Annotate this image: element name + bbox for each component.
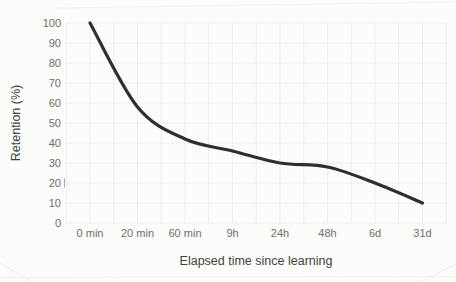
y-tick-label: 30 [49,157,61,169]
x-tick-label: 20 min [121,227,154,239]
y-tick-label: 90 [49,37,61,49]
x-tick-label: 24h [271,227,289,239]
x-tick-label: 31d [413,227,431,239]
x-axis-title: Elapsed time since learning [180,254,333,268]
y-tick-label: 70 [49,77,61,89]
forgetting-curve-line-chart: 0102030405060708090100 0 min20 min60 min… [0,0,456,282]
bottom-left-artifact-line [0,263,30,281]
x-tick-label: 0 min [77,227,104,239]
y-tick-label: 10 [49,197,61,209]
chart-card: 0102030405060708090100 0 min20 min60 min… [0,0,456,282]
x-tick-label: 9h [226,227,238,239]
bottom-edge-artifact-line [0,277,456,278]
x-tick-label: 48h [318,227,336,239]
y-tick-label: 100 [43,17,61,29]
y-tick-label: 80 [49,57,61,69]
y-tick-label: 20 [49,177,61,189]
x-tick-label: 60 min [168,227,201,239]
gridlines [66,23,446,223]
x-tick-label: 6d [369,227,381,239]
y-tick-label: 0 [55,217,61,229]
bottom-right-artifact-line [420,264,456,282]
x-axis-tick-labels: 0 min20 min60 min9h24h48h6d31d [77,227,432,239]
y-axis-tick-labels: 0102030405060708090100 [43,17,65,229]
y-tick-label: 60 [49,97,61,109]
top-edge-artifact-line [58,2,456,8]
y-tick-label: 40 [49,137,61,149]
y-axis-title: Retention (%) [9,85,23,161]
photo-artifacts [0,2,456,282]
y-tick-label: 50 [49,117,61,129]
